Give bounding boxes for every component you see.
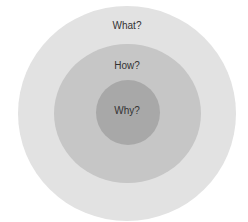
label-how: How? bbox=[97, 60, 157, 71]
label-what: What? bbox=[97, 20, 157, 31]
label-why: Why? bbox=[97, 105, 157, 116]
